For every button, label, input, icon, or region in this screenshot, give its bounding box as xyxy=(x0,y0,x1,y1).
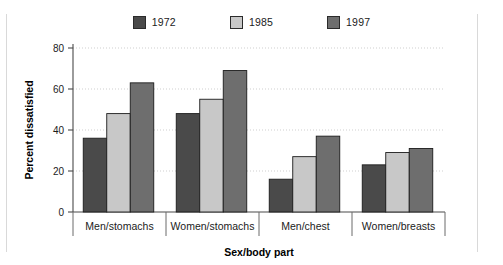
xtick-label-2: Men/chest xyxy=(281,220,330,232)
bar-men-stomachs-1972 xyxy=(83,138,107,212)
bar-men-stomachs-1997 xyxy=(130,83,154,212)
x-axis-title: Sex/body part xyxy=(224,246,294,258)
bar-men-chest-1985 xyxy=(293,157,317,212)
ytick-label-60: 60 xyxy=(53,84,65,95)
xtick-label-0: Men/stomachs xyxy=(85,220,153,232)
ytick-label-20: 20 xyxy=(53,166,65,177)
bar-women-breasts-1972 xyxy=(362,165,386,212)
y-axis-title: Percent dissatisfied xyxy=(23,80,35,179)
bar-men-chest-1997 xyxy=(316,136,340,212)
plot-area: 020406080Men/stomachsWomen/stomachsMen/c… xyxy=(0,0,503,265)
ytick-label-40: 40 xyxy=(53,125,65,136)
bar-chart-svg: 020406080Men/stomachsWomen/stomachsMen/c… xyxy=(0,0,503,265)
xtick-label-1: Women/stomachs xyxy=(171,220,255,232)
bar-women-stomachs-1997 xyxy=(223,71,247,212)
ytick-label-0: 0 xyxy=(58,207,64,218)
bar-men-chest-1972 xyxy=(269,179,293,212)
ytick-label-80: 80 xyxy=(53,43,65,54)
bar-women-breasts-1997 xyxy=(409,148,433,212)
bar-women-stomachs-1985 xyxy=(200,99,224,212)
bar-women-stomachs-1972 xyxy=(176,114,200,212)
xtick-label-3: Women/breasts xyxy=(362,220,435,232)
bar-women-breasts-1985 xyxy=(386,153,410,212)
bar-men-stomachs-1985 xyxy=(107,114,131,212)
chart-figure: 1972 1985 1997 020406080Men/stomachsWome… xyxy=(0,0,503,265)
